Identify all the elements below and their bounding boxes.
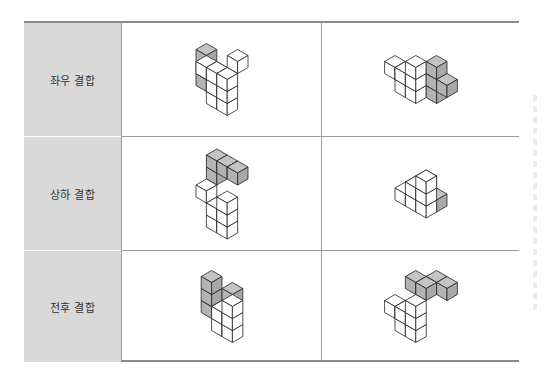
combination-table: 좌우 결합 상하 결합 전후 결합	[24, 21, 519, 362]
cube-figure-icon	[346, 254, 496, 359]
row-label: 전후 결합	[50, 299, 96, 315]
cube-figure-icon	[147, 139, 297, 249]
table-row-left-right: 좌우 결합	[24, 23, 519, 136]
figure-cell	[122, 251, 321, 362]
row-label-cell: 좌우 결합	[24, 23, 121, 136]
table-row-top-bottom: 상하 결합	[24, 137, 519, 250]
cube-figure-icon	[147, 254, 297, 359]
bleed-through-text	[533, 95, 537, 310]
row-label: 좌우 결합	[50, 72, 96, 88]
cube-figure-icon	[147, 27, 297, 132]
cube-figure-icon	[346, 27, 496, 132]
figure-cell	[122, 137, 321, 250]
row-label-cell: 상하 결합	[24, 137, 121, 250]
table-row-front-back: 전후 결합	[24, 251, 519, 362]
row-label: 상하 결합	[50, 186, 96, 202]
row-label-cell: 전후 결합	[24, 251, 121, 362]
figure-cell	[122, 23, 321, 136]
cube-figure-icon	[346, 139, 496, 249]
figure-cell	[322, 251, 519, 362]
figure-cell	[322, 137, 519, 250]
figure-cell	[322, 23, 519, 136]
